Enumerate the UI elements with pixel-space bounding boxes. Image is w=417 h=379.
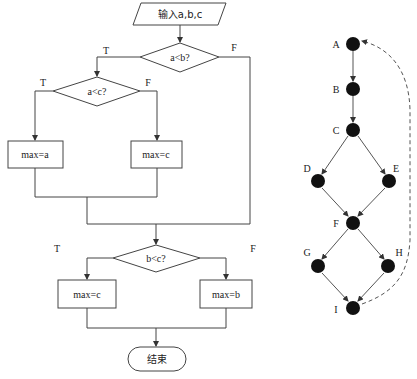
input-label: 输入a,b,c (158, 8, 202, 20)
node-h-label: H (395, 247, 402, 258)
box-max-c-1-label: max=c (142, 149, 170, 160)
node-c-label: C (333, 125, 340, 136)
node-d-label: D (303, 163, 310, 174)
decision-b-lt-c-label: b<c? (146, 253, 166, 264)
node-f (346, 216, 360, 230)
box-max-c-2-label: max=c (73, 289, 101, 300)
node-a (346, 37, 360, 51)
diagram-canvas: 输入a,b,c a<b? T F a<c? T F max=a max=c b<… (0, 0, 417, 379)
node-a-label: A (332, 39, 340, 50)
node-g-label: G (303, 247, 310, 258)
decision-b-lt-c-true: T (54, 243, 60, 254)
node-e (382, 174, 396, 188)
node-i (346, 301, 360, 315)
decision-a-lt-c-false: F (145, 77, 151, 88)
box-max-b-label: max=b (212, 289, 240, 300)
decision-a-lt-b-true: T (103, 45, 109, 56)
decision-a-lt-b-label: a<b? (170, 52, 190, 63)
node-b (346, 82, 360, 96)
decision-b-lt-c-false: F (250, 243, 256, 254)
node-b-label: B (333, 84, 340, 95)
node-g (311, 259, 325, 273)
end-label: 结束 (147, 353, 167, 365)
decision-a-lt-b-false: F (231, 42, 237, 53)
decision-a-lt-c-true: T (40, 77, 46, 88)
node-e-label: E (393, 163, 399, 174)
flowchart (8, 3, 252, 371)
decision-a-lt-c-label: a<c? (88, 86, 108, 97)
node-d (311, 174, 325, 188)
node-i-label: I (334, 304, 337, 315)
node-c (346, 123, 360, 137)
node-h (381, 259, 395, 273)
box-max-a-label: max=a (21, 149, 49, 160)
node-f-label: F (333, 218, 339, 229)
